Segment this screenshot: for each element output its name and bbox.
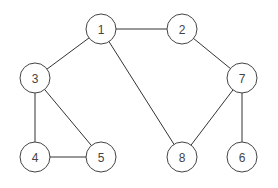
node-label: 4 <box>32 151 39 165</box>
edges-layer <box>35 29 242 157</box>
node-7: 7 <box>227 63 257 93</box>
node-1: 1 <box>86 14 116 44</box>
node-label: 5 <box>98 151 105 165</box>
node-label: 1 <box>98 23 105 37</box>
node-label: 6 <box>239 151 246 165</box>
graph-diagram: 12374586 <box>0 0 278 188</box>
nodes-layer: 12374586 <box>20 14 257 172</box>
node-label: 2 <box>179 23 186 37</box>
node-8: 8 <box>167 142 197 172</box>
node-6: 6 <box>227 142 257 172</box>
node-3: 3 <box>20 63 50 93</box>
edge-1-8 <box>101 29 182 157</box>
node-label: 3 <box>32 72 39 86</box>
node-label: 8 <box>179 151 186 165</box>
node-2: 2 <box>167 14 197 44</box>
node-5: 5 <box>86 142 116 172</box>
node-label: 7 <box>239 72 246 86</box>
node-4: 4 <box>20 142 50 172</box>
